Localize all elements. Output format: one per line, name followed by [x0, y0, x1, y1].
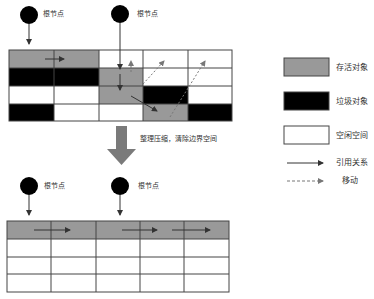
- root-node-icon: [111, 177, 129, 195]
- diagram-canvas: [0, 0, 374, 299]
- legend-swatch-free: [284, 126, 329, 144]
- legend-label-garbage: 垃圾对象: [336, 97, 368, 107]
- legend-label-live: 存活对象: [336, 63, 368, 73]
- root-label: 根节点: [137, 10, 158, 19]
- after-grid: [7, 221, 229, 292]
- legend-label-free: 空闲空间: [336, 131, 368, 141]
- legend-label-reference: 引用关系: [336, 158, 368, 168]
- legend-label-move: 移动: [342, 176, 358, 186]
- root-label: 根节点: [44, 182, 65, 191]
- big-down-arrow-icon: [107, 126, 136, 165]
- root-node-icon: [111, 5, 129, 23]
- legend-swatch-garbage: [284, 92, 329, 110]
- legend-swatch-live: [284, 58, 329, 76]
- root-label: 根节点: [43, 10, 64, 19]
- root-label: 根节点: [138, 182, 159, 191]
- root-node-icon: [20, 177, 38, 195]
- root-node-icon: [20, 6, 38, 24]
- process-label: 整理压缩，清除边界空间: [140, 135, 217, 144]
